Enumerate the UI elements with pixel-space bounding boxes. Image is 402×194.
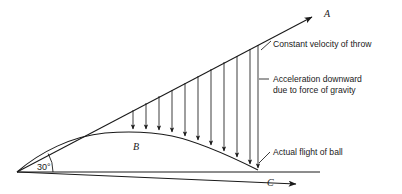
- projectile-diagram-canvas: Constant velocity of throw Acceleration …: [0, 0, 402, 194]
- range-ray-to-c: [17, 172, 296, 184]
- gravity-drop-arrows: [133, 45, 258, 168]
- callout-gravity-line2: due to force of gravity: [273, 85, 356, 95]
- callout-actual-flight: Actual flight of ball: [273, 147, 343, 157]
- actual-flight-curve: [17, 132, 258, 172]
- point-label-b: B: [133, 141, 139, 152]
- constant-velocity-ray-to-a: [17, 17, 312, 172]
- leader-line-flight: [259, 152, 270, 163]
- callout-gravity-line1: Acceleration downward: [273, 74, 362, 84]
- point-label-a: A: [323, 8, 331, 19]
- leader-line-velocity: [261, 41, 271, 50]
- point-label-c: C: [267, 177, 274, 188]
- projectile-diagram: Constant velocity of throw Acceleration …: [0, 0, 402, 194]
- callout-constant-velocity: Constant velocity of throw: [273, 39, 372, 49]
- angle-label-30: 30°: [37, 162, 51, 172]
